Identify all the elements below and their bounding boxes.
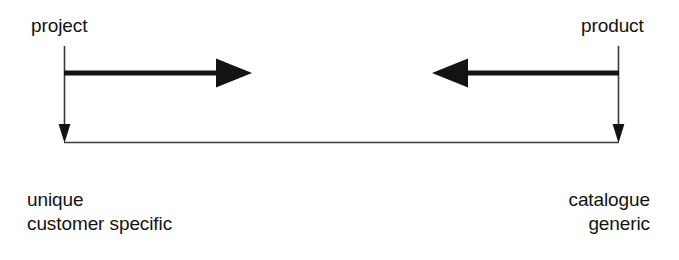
label-catalogue-generic: catalogue generic — [568, 188, 650, 236]
left-arrow-shaft — [64, 71, 222, 76]
label-unique: unique — [27, 189, 83, 210]
spectrum-diagram: project product unique customer specific… — [0, 0, 679, 260]
label-project: project — [31, 14, 87, 38]
left-pointing-arrowhead-icon — [432, 59, 468, 88]
left-down-arrowhead-icon — [59, 124, 71, 143]
label-catalogue: catalogue — [568, 189, 650, 210]
label-product: product — [581, 14, 644, 38]
label-generic: generic — [568, 212, 650, 236]
right-pointing-arrowhead-icon — [216, 59, 252, 88]
right-arrow-shaft — [461, 71, 619, 76]
right-down-arrowhead-icon — [613, 124, 625, 143]
label-unique-customer-specific: unique customer specific — [27, 188, 172, 236]
label-customer-specific: customer specific — [27, 212, 172, 236]
